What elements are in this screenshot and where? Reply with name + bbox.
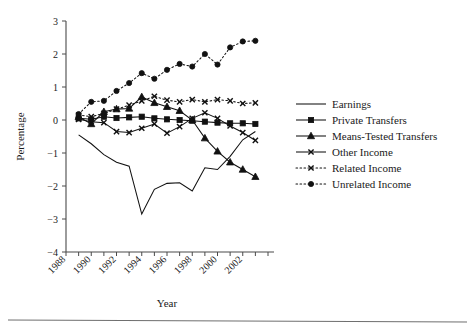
marker-circle	[177, 61, 182, 66]
y-tick-label: 2	[53, 49, 58, 60]
marker-x	[152, 94, 157, 99]
marker-triangle	[151, 99, 158, 105]
marker-square	[139, 114, 144, 119]
marker-circle	[76, 111, 81, 116]
marker-circle	[152, 76, 157, 81]
legend-label: Private Transfers	[332, 114, 407, 126]
marker-x	[164, 131, 169, 136]
legend-item-means-tested-transfers[interactable]: Means-Tested Transfers	[296, 130, 437, 142]
marker-x	[253, 138, 258, 143]
legend-label: Earnings	[332, 98, 371, 110]
svg-text:1994: 1994	[121, 254, 143, 276]
x-tick-label: 1994	[121, 254, 143, 276]
legend-item-unrelated-income[interactable]: Unrelated Income	[296, 178, 411, 190]
legend-label: Related Income	[332, 162, 401, 174]
y-axis-title: Percentage	[14, 112, 26, 160]
legend-item-related-income[interactable]: Related Income	[296, 162, 401, 174]
marker-square	[202, 119, 207, 124]
legend-label: Unrelated Income	[332, 178, 411, 190]
marker-triangle	[239, 166, 246, 172]
legend-label: Means-Tested Transfers	[332, 130, 437, 142]
svg-text:2002: 2002	[222, 254, 244, 276]
y-tick-label: −1	[47, 148, 58, 159]
svg-text:1996: 1996	[146, 254, 168, 276]
svg-text:1998: 1998	[172, 254, 194, 276]
svg-text:Percentage: Percentage	[14, 112, 26, 160]
marker-x	[177, 124, 182, 129]
series-earnings	[79, 132, 256, 215]
chart-figure: −4−3−2−101231988199019921994199619982000…	[0, 0, 475, 329]
marker-circle	[89, 99, 94, 104]
marker-circle	[228, 45, 233, 50]
plot-area	[75, 38, 259, 214]
svg-text:2000: 2000	[197, 254, 219, 276]
marker-square	[114, 115, 119, 120]
series-means-tested-transfers	[75, 93, 259, 179]
series-line	[79, 132, 256, 215]
marker-circle	[164, 67, 169, 72]
marker-square	[240, 121, 245, 126]
y-tick-label: 3	[53, 16, 58, 27]
y-tick-label: 0	[53, 115, 58, 126]
x-tick-label: 1990	[71, 254, 93, 276]
marker-triangle	[307, 132, 314, 138]
marker-x	[152, 121, 157, 126]
x-tick-label: 2002	[222, 254, 244, 276]
marker-x	[177, 99, 182, 104]
marker-triangle	[252, 173, 259, 179]
marker-x	[228, 98, 233, 103]
marker-x	[139, 126, 144, 131]
marker-square	[152, 116, 157, 121]
marker-square	[164, 117, 169, 122]
legend-item-earnings[interactable]: Earnings	[296, 98, 371, 110]
x-axis-title: Year	[157, 297, 178, 309]
marker-circle	[139, 71, 144, 76]
y-tick-label: 1	[53, 82, 58, 93]
marker-circle	[215, 62, 220, 67]
svg-text:1990: 1990	[71, 254, 93, 276]
marker-square	[308, 117, 313, 122]
marker-circle	[253, 38, 258, 43]
marker-square	[177, 117, 182, 122]
marker-circle	[190, 64, 195, 69]
x-tick-label: 2000	[197, 254, 219, 276]
legend-item-other-income[interactable]: Other Income	[296, 146, 393, 158]
marker-circle	[240, 39, 245, 44]
marker-square	[127, 115, 132, 120]
marker-circle	[127, 80, 132, 85]
x-tick-label: 1998	[172, 254, 194, 276]
line-chart: −4−3−2−101231988199019921994199619982000…	[0, 0, 475, 329]
marker-circle	[308, 181, 313, 186]
x-tick-label: 1996	[146, 254, 168, 276]
y-tick-label: −3	[47, 214, 58, 225]
marker-circle	[202, 51, 207, 56]
svg-text:1992: 1992	[96, 254, 118, 276]
marker-circle	[101, 98, 106, 103]
legend-label: Other Income	[332, 146, 393, 158]
x-tick-label: 1992	[96, 254, 118, 276]
y-tick-label: −2	[47, 181, 58, 192]
marker-square	[253, 121, 258, 126]
axes: −4−3−2−101231988199019921994199619982000…	[14, 16, 274, 309]
marker-circle	[114, 88, 119, 93]
marker-x	[164, 98, 169, 103]
marker-x	[240, 130, 245, 135]
legend: EarningsPrivate TransfersMeans-Tested Tr…	[296, 98, 437, 190]
marker-x	[202, 110, 207, 115]
legend-item-private-transfers[interactable]: Private Transfers	[296, 114, 407, 126]
marker-x	[240, 101, 245, 106]
bottom-divider	[8, 320, 467, 322]
